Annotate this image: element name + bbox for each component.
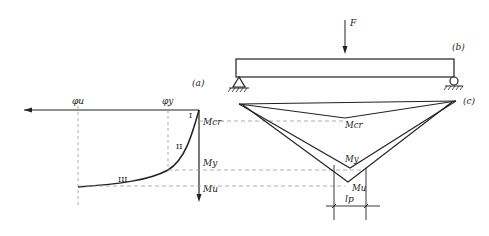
phi-u-label: φu (72, 96, 84, 106)
moment-curvature-plot: φu φy I II III Mcr My Mu (a) (24, 78, 222, 208)
panel-b-label: (b) (452, 42, 465, 52)
moment-diagrams: (c) Mcr My Mu (239, 96, 476, 193)
mu-axis-label: Mu (202, 184, 218, 194)
my-diagram-label: My (344, 154, 359, 164)
pin-support-icon (233, 77, 245, 87)
curvature-axis-arrow-icon (24, 108, 32, 113)
panel-c-label: (c) (463, 96, 476, 106)
mu-diagram-label: Mu (351, 183, 366, 193)
load-arrow-icon (343, 46, 348, 54)
ground-hatch-right (444, 86, 463, 90)
stage-1-label: I (189, 111, 192, 120)
beam-body (236, 59, 454, 77)
diagram-canvas: φu φy I II III Mcr My Mu (a) F (b) (0, 0, 489, 236)
simply-supported-beam: F (b) (228, 18, 465, 92)
stage-2-label: II (176, 142, 182, 151)
moment-axis-arrow-icon (197, 194, 202, 202)
panel-a-label: (a) (192, 78, 205, 88)
mcr-diagram-label: Mcr (344, 120, 363, 130)
mcr-axis-label: Mcr (202, 117, 222, 127)
stage-3-label: III (118, 175, 127, 184)
my-axis-label: My (202, 158, 218, 168)
phi-y-label: φy (162, 96, 174, 106)
ground-hatch-left (228, 88, 247, 92)
load-label: F (349, 18, 357, 28)
roller-support-icon (450, 77, 458, 85)
beam-moment-curvature-diagram: φu φy I II III Mcr My Mu (a) F (b) (0, 0, 489, 236)
moment-baseline (239, 101, 456, 104)
plastic-length-label: lp (345, 194, 354, 204)
